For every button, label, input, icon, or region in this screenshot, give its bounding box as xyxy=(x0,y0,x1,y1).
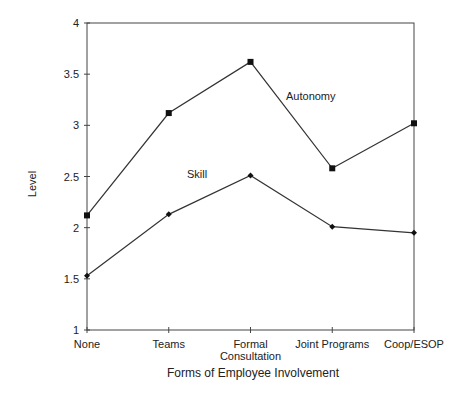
square-marker xyxy=(84,212,90,218)
y-tick-label: 2.5 xyxy=(64,171,79,183)
x-tick-label: Joint Programs xyxy=(295,338,369,350)
line-chart: 11.522.533.54 NoneTeamsFormalConsultatio… xyxy=(0,0,460,395)
series-annotation: Skill xyxy=(187,168,207,180)
y-tick-label: 1.5 xyxy=(64,273,79,285)
square-marker xyxy=(329,165,335,171)
series-group xyxy=(84,59,417,279)
y-axis: 11.522.533.54 xyxy=(64,17,90,336)
y-tick-label: 2 xyxy=(73,222,79,234)
x-tick-label: None xyxy=(74,338,100,350)
diamond-marker xyxy=(411,230,417,236)
square-marker xyxy=(166,110,172,116)
x-axis: NoneTeamsFormalConsultationJoint Program… xyxy=(74,327,444,362)
series-annotation: Autonomy xyxy=(286,90,336,102)
diamond-marker xyxy=(329,224,335,230)
diamond-marker xyxy=(248,172,254,178)
y-axis-label: Level xyxy=(26,171,38,197)
x-tick-label: Consultation xyxy=(220,350,281,362)
y-tick-label: 1 xyxy=(73,324,79,336)
x-tick-label: Coop/ESOP xyxy=(384,338,444,350)
x-tick-label: Formal xyxy=(233,338,267,350)
y-tick-label: 4 xyxy=(73,17,79,29)
x-axis-label: Forms of Employee Involvement xyxy=(167,366,340,380)
square-marker xyxy=(248,59,254,65)
series-line-autonomy xyxy=(87,62,414,216)
y-tick-label: 3.5 xyxy=(64,68,79,80)
x-tick-label: Teams xyxy=(153,338,186,350)
series-line-skill xyxy=(87,175,414,275)
square-marker xyxy=(411,120,417,126)
y-tick-label: 3 xyxy=(73,119,79,131)
annotations: AutonomySkill xyxy=(187,90,336,180)
